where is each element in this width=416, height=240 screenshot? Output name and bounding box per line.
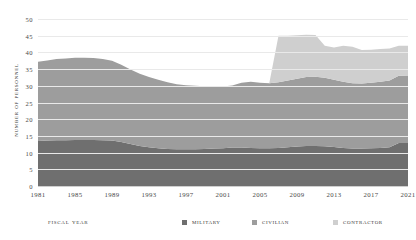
legend-swatch-icon xyxy=(252,220,257,225)
y-axis-title: Number of Personnel xyxy=(12,30,20,170)
legend-swatch-icon xyxy=(333,220,338,225)
x-axis-tick-label: 2013 xyxy=(326,191,341,198)
legend-label: Civilian xyxy=(262,218,289,226)
x-axis-tick-label: 2001 xyxy=(215,191,230,198)
gridline xyxy=(38,19,408,20)
gridline xyxy=(38,86,408,87)
gridline xyxy=(38,52,408,53)
x-axis-tick-label: 1985 xyxy=(67,191,82,198)
gridline xyxy=(38,186,408,187)
x-axis-tick-label: 1981 xyxy=(30,191,45,198)
legend-item-civilian[interactable]: Civilian xyxy=(252,218,289,226)
x-axis-tick-label: 2009 xyxy=(289,191,304,198)
y-axis-tick-label: 15 xyxy=(26,132,33,139)
gridline xyxy=(38,119,408,120)
x-axis-tick-label: 1989 xyxy=(104,191,119,198)
y-axis-tick-label: 45 xyxy=(26,32,33,39)
x-axis-tick-label: 1993 xyxy=(141,191,156,198)
stacked-area-chart: Number of Personnel 05101520253035404550… xyxy=(0,0,416,240)
y-axis-tick-label: 35 xyxy=(26,66,33,73)
gridline xyxy=(38,153,408,154)
gridline xyxy=(38,103,408,104)
legend-swatch-icon xyxy=(182,220,187,225)
x-axis-tick-label: 2005 xyxy=(252,191,267,198)
y-axis-tick-label: 40 xyxy=(26,49,33,56)
gridline xyxy=(38,36,408,37)
chart-legend: Fiscal Year MilitaryCivilianContractor xyxy=(0,212,416,238)
y-axis-tick-label: 30 xyxy=(26,82,33,89)
legend-label: Contractor xyxy=(343,218,383,226)
y-axis-tick-label: 0 xyxy=(29,183,33,190)
x-axis-title: Fiscal Year xyxy=(48,218,88,226)
gridline xyxy=(38,136,408,137)
y-axis-tick-label: 50 xyxy=(26,16,33,23)
x-axis-tick-label: 2017 xyxy=(363,191,378,198)
legend-item-military[interactable]: Military xyxy=(182,218,221,226)
plot-area: 0510152025303540455019811985198919931997… xyxy=(38,19,408,186)
y-axis-tick-label: 10 xyxy=(26,149,33,156)
gridline xyxy=(38,169,408,170)
x-axis-tick-label: 2021 xyxy=(400,191,415,198)
y-axis-tick-label: 25 xyxy=(26,99,33,106)
legend-item-contractor[interactable]: Contractor xyxy=(333,218,383,226)
y-axis-tick-label: 5 xyxy=(29,166,33,173)
y-axis-tick-label: 20 xyxy=(26,116,33,123)
x-axis-tick-label: 1997 xyxy=(178,191,193,198)
gridline xyxy=(38,69,408,70)
legend-label: Military xyxy=(192,218,221,226)
